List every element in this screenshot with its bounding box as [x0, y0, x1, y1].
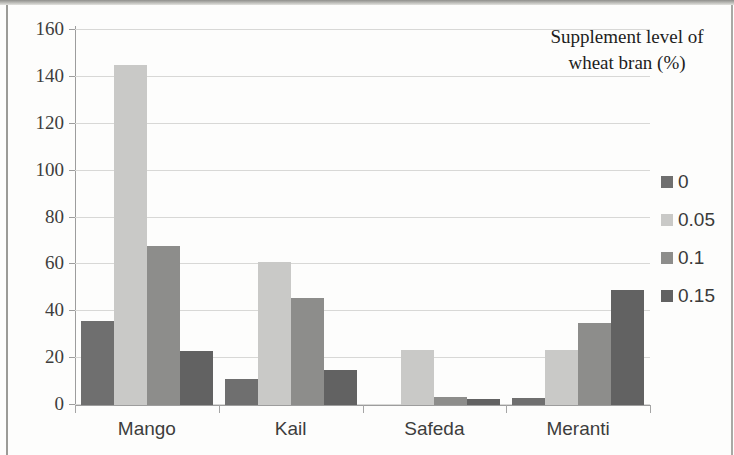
- legend-swatch-icon: [661, 290, 673, 302]
- legend-item[interactable]: 0.05: [661, 201, 715, 239]
- y-tick-label: 60: [45, 252, 64, 274]
- x-tick-mark: [75, 405, 76, 413]
- y-tick-label: 120: [36, 112, 65, 134]
- page-border-left: [6, 5, 8, 455]
- bar-group: [363, 30, 507, 405]
- x-tick-mark: [506, 405, 507, 413]
- legend-title: Supplement level of wheat bran (%): [520, 24, 734, 76]
- bar: [401, 350, 434, 405]
- bar: [545, 350, 578, 405]
- x-tick-label: Mango: [75, 418, 219, 440]
- legend-item[interactable]: 0.15: [661, 277, 715, 315]
- x-tick-label: Safeda: [363, 418, 507, 440]
- bar: [114, 65, 147, 405]
- bar: [434, 397, 467, 405]
- bar: [467, 399, 500, 405]
- bar-group: [506, 30, 650, 405]
- bar: [258, 262, 291, 405]
- legend-label: 0: [678, 171, 689, 193]
- legend-title-line-1: Supplement level of: [520, 24, 734, 50]
- y-tick-label: 80: [45, 206, 64, 228]
- legend: 00.050.10.15: [661, 163, 715, 315]
- legend-label: 0.05: [678, 209, 715, 231]
- bar: [81, 321, 114, 405]
- x-tick-mark: [363, 405, 364, 413]
- x-tick-label: Kail: [219, 418, 363, 440]
- legend-item[interactable]: 0: [661, 163, 715, 201]
- bar: [291, 298, 324, 405]
- legend-label: 0.15: [678, 285, 715, 307]
- page-border-top: [0, 0, 734, 5]
- bar: [324, 370, 357, 405]
- bar: [225, 379, 258, 405]
- bar: [512, 398, 545, 405]
- legend-item[interactable]: 0.1: [661, 239, 715, 277]
- legend-swatch-icon: [661, 214, 673, 226]
- y-tick-label: 20: [45, 346, 64, 368]
- y-tick-label: 40: [45, 299, 64, 321]
- plot-area: 020406080100120140160: [75, 30, 650, 405]
- x-tick-label: Meranti: [506, 418, 650, 440]
- x-tick-mark: [650, 405, 651, 413]
- bar: [611, 290, 644, 405]
- y-tick-label: 0: [55, 393, 65, 415]
- legend-title-line-2: wheat bran (%): [520, 50, 734, 76]
- y-tick-label: 160: [36, 18, 65, 40]
- y-tick-label: 140: [36, 65, 65, 87]
- chart-figure: 020406080100120140160 Supplement level o…: [0, 0, 734, 455]
- bar: [180, 351, 213, 405]
- bar: [147, 246, 180, 405]
- bar: [578, 323, 611, 405]
- bar-group: [75, 30, 219, 405]
- x-tick-mark: [219, 405, 220, 413]
- y-tick-label: 100: [36, 159, 65, 181]
- bar-group: [219, 30, 363, 405]
- legend-label: 0.1: [678, 247, 704, 269]
- legend-swatch-icon: [661, 252, 673, 264]
- legend-swatch-icon: [661, 176, 673, 188]
